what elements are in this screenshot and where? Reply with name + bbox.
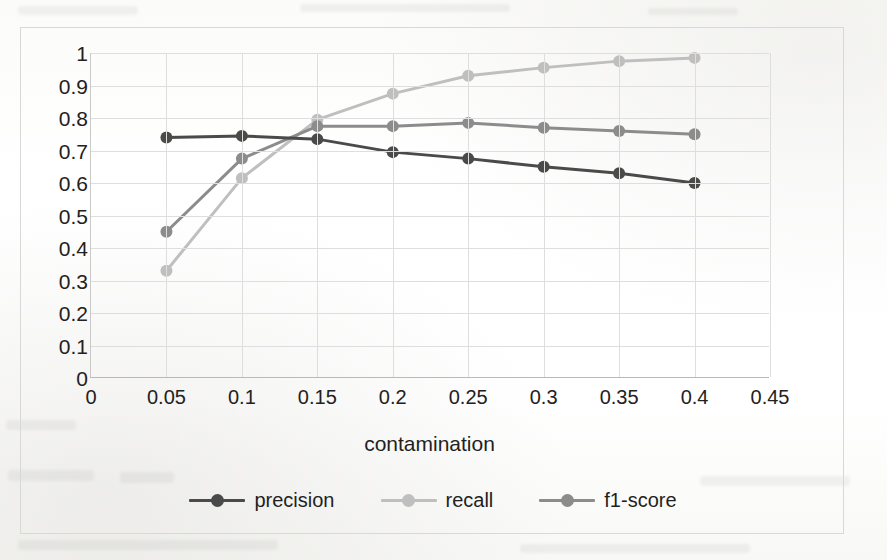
legend-label-precision: precision bbox=[254, 489, 334, 512]
page-background: 10.90.80.70.60.50.40.30.20.1000.050.10.1… bbox=[0, 0, 887, 560]
gridline-vertical bbox=[770, 53, 771, 377]
gridline-horizontal bbox=[91, 86, 769, 87]
y-axis-tick-label: 0.9 bbox=[28, 75, 88, 96]
series-line-recall bbox=[166, 58, 694, 271]
x-axis-tick-label: 0.2 bbox=[353, 387, 433, 407]
gridline-horizontal bbox=[91, 183, 769, 184]
gridline-horizontal bbox=[91, 216, 769, 217]
legend-dot-precision bbox=[211, 494, 224, 507]
x-axis-title: contamination bbox=[90, 432, 769, 456]
plot-area: 10.90.80.70.60.50.40.30.20.1000.050.10.1… bbox=[90, 53, 769, 378]
gridline-horizontal bbox=[91, 313, 769, 314]
legend-item-precision[interactable]: precision bbox=[189, 489, 334, 512]
legend-marker-f1-score bbox=[539, 494, 595, 508]
gridline-vertical bbox=[544, 53, 545, 377]
y-axis-tick-label: 0.8 bbox=[28, 108, 88, 129]
chart-legend: precision recall f1-score bbox=[21, 489, 845, 512]
y-axis-tick-label: 0.2 bbox=[28, 303, 88, 324]
y-axis-tick-label: 1 bbox=[28, 43, 88, 64]
legend-dot-recall bbox=[402, 494, 415, 507]
x-axis-tick-label: 0.45 bbox=[730, 387, 810, 407]
legend-item-recall[interactable]: recall bbox=[381, 489, 494, 512]
gridline-vertical bbox=[317, 53, 318, 377]
gridline-horizontal bbox=[91, 248, 769, 249]
gridline-horizontal bbox=[91, 53, 769, 54]
gridline-vertical bbox=[166, 53, 167, 377]
gridline-horizontal bbox=[91, 151, 769, 152]
gridline-vertical bbox=[468, 53, 469, 377]
y-axis-tick-label: 0.3 bbox=[28, 270, 88, 291]
y-axis-tick-label: 0.6 bbox=[28, 173, 88, 194]
gridline-vertical bbox=[619, 53, 620, 377]
legend-label-f1-score: f1-score bbox=[604, 489, 676, 512]
y-axis-tick-label: 0.4 bbox=[28, 238, 88, 259]
y-axis-tick-label: 0.5 bbox=[28, 205, 88, 226]
x-axis-tick-label: 0.15 bbox=[277, 387, 357, 407]
gridline-horizontal bbox=[91, 346, 769, 347]
legend-marker-recall bbox=[381, 494, 437, 508]
legend-label-recall: recall bbox=[446, 489, 494, 512]
y-axis-tick-label: 0.1 bbox=[28, 335, 88, 356]
gridline-vertical bbox=[242, 53, 243, 377]
x-axis-tick-label: 0.25 bbox=[428, 387, 508, 407]
y-axis-tick-label: 0 bbox=[28, 368, 88, 389]
gridline-vertical bbox=[695, 53, 696, 377]
gridline-horizontal bbox=[91, 118, 769, 119]
legend-item-f1-score[interactable]: f1-score bbox=[539, 489, 676, 512]
x-axis-tick-label: 0.05 bbox=[126, 387, 206, 407]
chart-container: 10.90.80.70.60.50.40.30.20.1000.050.10.1… bbox=[20, 27, 844, 534]
y-axis-tick-label: 0.7 bbox=[28, 140, 88, 161]
x-axis-tick-label: 0 bbox=[51, 387, 131, 407]
x-axis-tick-label: 0.35 bbox=[579, 387, 659, 407]
legend-marker-precision bbox=[189, 494, 245, 508]
legend-dot-f1-score bbox=[561, 494, 574, 507]
x-axis-tick-label: 0.4 bbox=[655, 387, 735, 407]
x-axis-tick-label: 0.1 bbox=[202, 387, 282, 407]
x-axis-tick-label: 0.3 bbox=[504, 387, 584, 407]
gridline-vertical bbox=[393, 53, 394, 377]
gridline-horizontal bbox=[91, 281, 769, 282]
